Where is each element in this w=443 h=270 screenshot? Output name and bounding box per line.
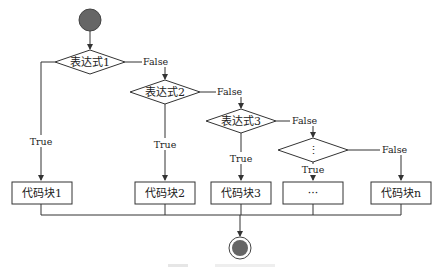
decision-2-false-label: False [217, 86, 243, 97]
decision-2-true-label: True [154, 139, 177, 150]
code-block-ellipsis-label: ··· [308, 187, 319, 200]
decision-2-label: 表达式2 [145, 85, 185, 99]
decision-4-false-label: False [382, 144, 408, 155]
decision-1-label: 表达式1 [70, 55, 110, 69]
start-node [79, 9, 101, 31]
decision-3-label: 表达式3 [221, 114, 261, 128]
decision-4-label: ⋮ [308, 144, 319, 157]
flowchart-canvas: 表达式1 True False 表达式2 True False 表达式3 Tru… [0, 0, 443, 270]
code-block-n: 代码块n [371, 182, 431, 204]
decision-4-true-label: True [302, 164, 325, 175]
end-node [229, 237, 251, 259]
code-block-3: 代码块3 [211, 182, 271, 204]
decision-1: 表达式1 [55, 50, 125, 74]
code-block-1-label: 代码块1 [22, 187, 62, 200]
caption-remnant [215, 264, 275, 267]
decision-1-false-label: False [143, 56, 169, 67]
code-block-3-label: 代码块3 [221, 187, 261, 200]
caption-remnant [168, 264, 188, 267]
code-block-n-label: 代码块n [381, 187, 421, 200]
code-block-2: 代码块2 [135, 182, 195, 204]
code-block-2-label: 代码块2 [145, 187, 185, 200]
decision-2: 表达式2 [130, 80, 200, 104]
decision-3-false-label: False [292, 115, 318, 126]
decision-3: 表达式3 [206, 109, 276, 133]
decision-3-true-label: True [230, 153, 253, 164]
decision-4: ⋮ [278, 138, 348, 162]
merge-connector [41, 204, 401, 236]
decision-1-true-label: True [30, 136, 53, 147]
code-block-ellipsis: ··· [283, 182, 343, 204]
code-block-1: 代码块1 [12, 182, 72, 204]
